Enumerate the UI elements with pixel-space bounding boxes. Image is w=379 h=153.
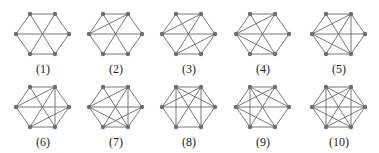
graph-edge	[236, 14, 250, 34]
graph-vertex	[53, 125, 57, 129]
graph-label: (8)	[156, 135, 222, 150]
graph-5: (5)	[306, 7, 372, 79]
graph-label: (2)	[83, 62, 149, 77]
graph-label: (1)	[10, 62, 76, 77]
graph-drawing	[83, 80, 149, 132]
graph-vertex	[234, 32, 238, 36]
graph-vertex	[324, 52, 328, 56]
graph-edge	[275, 107, 289, 127]
graph-edge	[201, 34, 215, 54]
graph-vertex	[273, 52, 277, 56]
graph-vertex	[248, 125, 252, 129]
graph-edge	[351, 34, 365, 54]
graph-drawing	[156, 7, 222, 59]
graph-vertex	[101, 125, 105, 129]
graph-edge	[236, 87, 250, 107]
graph-vertex	[248, 12, 252, 16]
graph-vertex	[140, 105, 144, 109]
graph-vertex	[160, 32, 164, 36]
graph-edge	[312, 107, 326, 127]
graph-vertex	[248, 52, 252, 56]
graph-edge	[162, 87, 176, 107]
graph-vertex	[87, 105, 91, 109]
graph-7: (7)	[83, 80, 149, 152]
graph-edge	[55, 107, 69, 127]
graph-edge	[351, 14, 365, 34]
graph-drawing	[230, 80, 296, 132]
graph-edge	[201, 14, 215, 34]
graph-1: (1)	[10, 7, 76, 79]
graph-vertex	[126, 85, 130, 89]
graph-4: (4)	[230, 7, 296, 79]
graph-vertex	[126, 12, 130, 16]
graph-vertex	[287, 105, 291, 109]
graph-vertex	[310, 32, 314, 36]
graph-edge	[89, 87, 103, 107]
graph-drawing	[306, 7, 372, 59]
graph-edge	[162, 107, 176, 127]
graph-edge	[312, 34, 326, 54]
graph-edge	[201, 87, 215, 107]
graph-drawing	[10, 7, 76, 59]
graph-edge	[236, 34, 250, 54]
graph-vertex	[28, 12, 32, 16]
graph-label: (6)	[10, 135, 76, 150]
graph-edge	[312, 87, 326, 107]
graph-edge	[275, 14, 289, 34]
graph-edge	[128, 107, 142, 127]
graph-edge	[55, 14, 69, 34]
graph-vertex	[53, 85, 57, 89]
graph-vertex	[160, 105, 164, 109]
graph-edge	[201, 107, 215, 127]
graph-label: (3)	[156, 62, 222, 77]
graph-vertex	[273, 125, 277, 129]
graph-edge	[351, 107, 365, 127]
graph-vertex	[213, 105, 217, 109]
graph-vertex	[28, 52, 32, 56]
graph-label: (5)	[306, 62, 372, 77]
graph-vertex	[140, 32, 144, 36]
graph-drawing	[83, 7, 149, 59]
graph-edge	[55, 87, 69, 107]
graph-vertex	[101, 52, 105, 56]
graph-edge	[351, 87, 365, 107]
graph-vertex	[363, 32, 367, 36]
graph-vertex	[199, 85, 203, 89]
graph-vertex	[126, 125, 130, 129]
graph-vertex	[67, 32, 71, 36]
graph-9: (9)	[230, 80, 296, 152]
graph-label: (9)	[230, 135, 296, 150]
graph-drawing	[306, 80, 372, 132]
graph-vertex	[287, 32, 291, 36]
graph-vertex	[349, 85, 353, 89]
graph-edge	[162, 34, 176, 54]
graph-edge	[162, 14, 176, 34]
graph-edge	[89, 14, 103, 34]
graph-label: (4)	[230, 62, 296, 77]
graph-vertex	[14, 105, 18, 109]
graph-vertex	[234, 105, 238, 109]
graph-vertex	[248, 85, 252, 89]
graph-label: (7)	[83, 135, 149, 150]
graph-vertex	[53, 52, 57, 56]
graph-edge	[16, 14, 30, 34]
graph-vertex	[199, 12, 203, 16]
graph-3: (3)	[156, 7, 222, 79]
graph-vertex	[14, 32, 18, 36]
graph-vertex	[349, 125, 353, 129]
graph-vertex	[324, 12, 328, 16]
graph-drawing	[230, 7, 296, 59]
graph-edge	[312, 14, 326, 34]
graph-label: (10)	[306, 135, 372, 150]
graph-vertex	[53, 12, 57, 16]
graph-edge	[55, 34, 69, 54]
graph-vertex	[213, 32, 217, 36]
graph-edge	[89, 107, 103, 127]
graph-vertex	[67, 105, 71, 109]
graph-vertex	[363, 105, 367, 109]
graph-vertex	[101, 12, 105, 16]
graph-vertex	[324, 125, 328, 129]
graph-10: (10)	[306, 80, 372, 152]
graph-vertex	[310, 105, 314, 109]
graph-edge	[16, 107, 30, 127]
